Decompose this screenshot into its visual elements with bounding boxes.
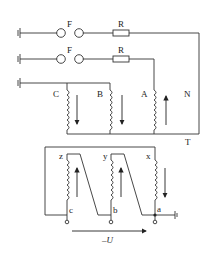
winding-label-c: C — [53, 89, 59, 99]
secondary-windings: z y x c b a — [45, 147, 177, 224]
primary-winding-a: A — [141, 89, 166, 134]
terminal-label-z: z — [59, 151, 63, 161]
supply-line-1: F R — [18, 19, 199, 134]
primary-winding-b: B — [97, 89, 122, 134]
fuse-terminal-icon — [57, 29, 66, 38]
resistor-label: R — [118, 45, 124, 55]
fuse-terminal-icon — [75, 29, 84, 38]
ground-icon — [18, 78, 20, 88]
terminal-label-b: b — [113, 205, 118, 215]
fuse-terminal-icon — [57, 55, 66, 64]
resistor-icon — [113, 30, 129, 36]
resistor-label: R — [118, 19, 124, 29]
ground-icon — [18, 54, 20, 64]
fuse-label: F — [67, 19, 72, 29]
transformer-label: T — [185, 137, 191, 147]
fuse-terminal-icon — [75, 55, 84, 64]
terminal-label-c: c — [69, 205, 73, 215]
primary-winding-c: C — [53, 89, 77, 134]
winding-label-b: B — [97, 89, 103, 99]
terminal-label-a: a — [157, 204, 161, 214]
terminal-icon — [153, 220, 157, 224]
neutral-label: N — [184, 89, 191, 99]
voltage-label: –U — [101, 235, 114, 245]
terminal-icon — [109, 220, 113, 224]
winding-label-a: A — [141, 89, 148, 99]
terminal-label-y: y — [103, 151, 108, 161]
circuit-diagram: F R F R C B — [0, 0, 212, 259]
ground-icon — [18, 28, 20, 38]
terminal-label-x: x — [146, 151, 151, 161]
ground-icon — [175, 211, 177, 219]
resistor-icon — [113, 56, 129, 62]
fuse-label: F — [67, 45, 72, 55]
terminal-icon — [65, 220, 69, 224]
